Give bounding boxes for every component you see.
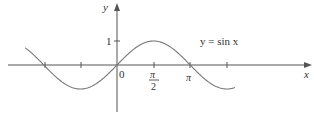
pi-half-denominator: 2 xyxy=(151,81,156,92)
chart-svg: y x 1 0 π 2 π y = sin x xyxy=(0,0,314,115)
pi-half-numerator: π xyxy=(150,69,156,80)
pi-label: π xyxy=(186,72,192,83)
sine-graph: y x 1 0 π 2 π y = sin x xyxy=(0,0,314,115)
y-tick-label-1: 1 xyxy=(106,35,112,47)
y-axis-arrow-icon xyxy=(114,3,120,11)
y-axis-label: y xyxy=(102,1,108,13)
origin-label: 0 xyxy=(119,68,125,80)
function-label: y = sin x xyxy=(200,35,239,47)
x-axis-label: x xyxy=(303,68,309,80)
